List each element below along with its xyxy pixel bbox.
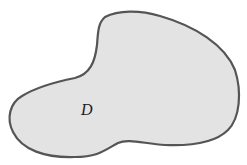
region-shape <box>0 0 247 165</box>
region-label: D <box>81 102 93 118</box>
region-boundary <box>10 12 239 157</box>
diagram-canvas: D <box>0 0 247 165</box>
